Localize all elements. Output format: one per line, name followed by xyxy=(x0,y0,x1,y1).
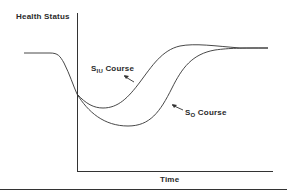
so-course-label: SO Course xyxy=(185,108,227,117)
siu-subscript: IU xyxy=(97,68,103,74)
siu-course-curve xyxy=(77,45,268,108)
siu-s: S xyxy=(91,64,97,73)
siu-rest: Course xyxy=(103,64,134,73)
health-status-diagram xyxy=(0,0,287,196)
so-course-curve xyxy=(77,48,268,126)
baseline-curve xyxy=(24,53,77,94)
so-s: S xyxy=(185,108,191,117)
so-subscript: O xyxy=(191,112,196,118)
x-axis-label: Time xyxy=(160,175,179,184)
y-axis-label: Health Status xyxy=(16,12,70,21)
siu-course-label: SIU Course xyxy=(91,64,134,73)
so-rest: Course xyxy=(195,108,226,117)
